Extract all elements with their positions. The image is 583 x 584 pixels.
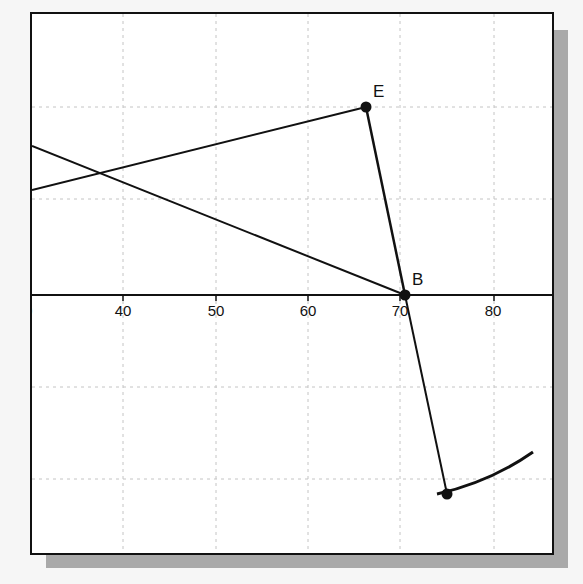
sketch-geometry [32,107,533,494]
tick-label-40: 40 [115,302,132,319]
arc-segment[interactable] [437,452,533,494]
graphics-window: 30 40 50 60 70 80 E B [30,12,554,555]
frame-shadow-right [552,30,568,568]
grid [32,14,552,553]
point-b[interactable] [400,290,411,301]
point-arc-start[interactable] [442,489,453,500]
tick-label-60: 60 [300,302,317,319]
sketch-canvas: 30 40 50 60 70 80 E B [32,14,552,553]
point-label-e: E [373,82,384,101]
frame-shadow-bottom [46,553,568,568]
line-b-bottom[interactable] [405,295,447,494]
point-label-b: B [412,270,423,289]
tick-label-50: 50 [208,302,225,319]
line-to-b[interactable] [32,146,405,295]
line-e-b[interactable] [366,107,405,295]
tick-label-80: 80 [485,302,502,319]
x-axis: 30 40 50 60 70 80 [32,295,552,319]
point-e[interactable] [361,102,372,113]
line-to-e[interactable] [32,107,366,190]
tick-label-70: 70 [392,302,409,319]
